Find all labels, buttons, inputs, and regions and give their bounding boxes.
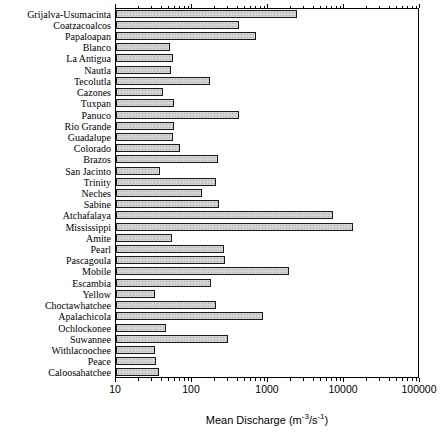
y-axis-label: Yellow <box>83 288 111 299</box>
y-axis-label: Apalachicola <box>58 311 111 322</box>
bar <box>116 346 155 354</box>
bar <box>116 43 170 51</box>
minor-tick <box>412 378 413 381</box>
minor-tick <box>340 378 341 381</box>
minor-tick <box>227 378 228 381</box>
minor-tick <box>255 6 256 9</box>
bar <box>116 357 156 365</box>
y-axis-label: Panuco <box>82 109 111 120</box>
minor-tick <box>244 6 245 9</box>
y-axis-label: Amite <box>86 232 111 243</box>
minor-tick <box>407 378 408 381</box>
y-axis-label: Blanco <box>83 42 111 53</box>
bar <box>116 10 297 18</box>
minor-tick <box>237 378 238 381</box>
bar <box>116 54 173 62</box>
y-axis-label: Pascagoula <box>66 255 111 266</box>
y-axis-label: Ochlockonee <box>58 322 111 333</box>
y-axis-label: Caloosahatchee <box>48 367 111 378</box>
bar <box>116 77 210 85</box>
minor-tick <box>168 378 169 381</box>
major-tick <box>191 4 192 8</box>
y-axis-label: Tuxpan <box>81 98 111 109</box>
minor-tick <box>264 378 265 381</box>
minor-tick <box>214 378 215 381</box>
major-tick <box>267 4 268 8</box>
minor-tick <box>379 378 380 381</box>
x-axis-tick-label: 100000 <box>401 383 436 395</box>
minor-tick <box>237 6 238 9</box>
minor-tick <box>331 6 332 9</box>
minor-tick <box>188 6 189 9</box>
y-axis-label: La Antigua <box>66 53 111 64</box>
y-axis-label: Sabine <box>84 199 111 210</box>
minor-tick <box>214 6 215 9</box>
bar <box>116 155 218 163</box>
plot-area <box>115 8 419 378</box>
y-axis-label: Atchafalaya <box>63 210 111 221</box>
x-axis-title: Mean Discharge (m-3/s-1) <box>115 412 419 426</box>
x-axis-title-post: ) <box>325 414 329 426</box>
y-axis-label: Rio Grande <box>65 120 111 131</box>
major-tick <box>267 378 268 382</box>
minor-tick <box>168 6 169 9</box>
minor-tick <box>313 378 314 381</box>
minor-tick <box>179 378 180 381</box>
minor-tick <box>290 378 291 381</box>
minor-tick <box>313 6 314 9</box>
minor-tick <box>174 6 175 9</box>
bar <box>116 234 172 242</box>
x-axis-tick-label: 100 <box>182 383 200 395</box>
minor-tick <box>303 6 304 9</box>
y-axis-label: Colorado <box>74 143 111 154</box>
minor-tick <box>161 378 162 381</box>
bar <box>116 178 216 186</box>
y-axis-label: San Jacinto <box>65 165 111 176</box>
bar <box>116 335 228 343</box>
minor-tick <box>138 6 139 9</box>
minor-tick <box>389 378 390 381</box>
y-axis-label: Tecolutla <box>74 75 111 86</box>
minor-tick <box>138 378 139 381</box>
bar <box>116 312 263 320</box>
minor-tick <box>396 378 397 381</box>
y-axis-label: Mississippi <box>65 221 111 232</box>
bar <box>116 279 211 287</box>
x-axis-title-sup2: -1 <box>317 412 324 421</box>
minor-tick <box>336 378 337 381</box>
y-axis-label: Choctawhatchee <box>45 300 111 311</box>
minor-tick <box>366 378 367 381</box>
bar <box>116 167 160 175</box>
minor-tick <box>260 6 261 9</box>
minor-tick <box>320 6 321 9</box>
bar <box>116 111 239 119</box>
y-axis-label: Brazos <box>83 154 111 165</box>
x-axis-tick-label: 10 <box>109 383 121 395</box>
bar <box>116 245 224 253</box>
minor-tick <box>179 6 180 9</box>
minor-tick <box>402 378 403 381</box>
minor-tick <box>151 378 152 381</box>
minor-tick <box>260 378 261 381</box>
minor-tick <box>290 6 291 9</box>
minor-tick <box>151 6 152 9</box>
minor-tick <box>184 378 185 381</box>
y-axis-label: Grijalva-Usumacinta <box>27 8 111 19</box>
minor-tick <box>326 6 327 9</box>
minor-tick <box>250 378 251 381</box>
discharge-bar-chart: Grijalva-UsumacintaCoatzacoalcosPapaloap… <box>0 0 447 436</box>
y-axis-label: Withlacoochee <box>51 344 111 355</box>
bar <box>116 99 174 107</box>
y-axis-label: Papaloapan <box>65 31 111 42</box>
minor-tick <box>255 378 256 381</box>
minor-tick <box>336 6 337 9</box>
y-axis-label: Nautla <box>84 64 111 75</box>
minor-tick <box>303 378 304 381</box>
x-axis-title-sup1: -3 <box>302 412 309 421</box>
bar <box>116 133 173 141</box>
bar <box>116 368 159 376</box>
y-axis-label: Suwannee <box>70 333 111 344</box>
minor-tick <box>331 378 332 381</box>
minor-tick <box>407 6 408 9</box>
major-tick <box>419 378 420 382</box>
